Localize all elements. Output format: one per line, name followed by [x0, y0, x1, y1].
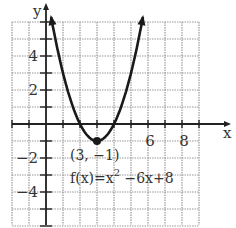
y-tick-label: 2	[28, 81, 38, 99]
y-axis-label: y	[32, 2, 42, 20]
y-axis-arrow-icon	[43, 3, 49, 10]
y-tick-label: −2	[16, 149, 38, 167]
x-axis-label: x	[223, 124, 232, 142]
y-tick-label: 4	[28, 47, 38, 65]
parabola-chart: y x (3, −1) f(x)=x2 −6x+8 42−2−468	[0, 0, 236, 228]
x-tick-label: 8	[179, 132, 189, 150]
vertex-point	[93, 137, 101, 145]
function-label: f(x)=x2 −6x+8	[70, 167, 174, 186]
y-tick-label: −4	[16, 183, 38, 201]
curve-arrow-icon	[138, 15, 146, 26]
x-tick-label: 6	[145, 132, 155, 150]
vertex-label: (3, −1)	[70, 147, 119, 163]
curve-arrow-icon	[49, 15, 57, 26]
